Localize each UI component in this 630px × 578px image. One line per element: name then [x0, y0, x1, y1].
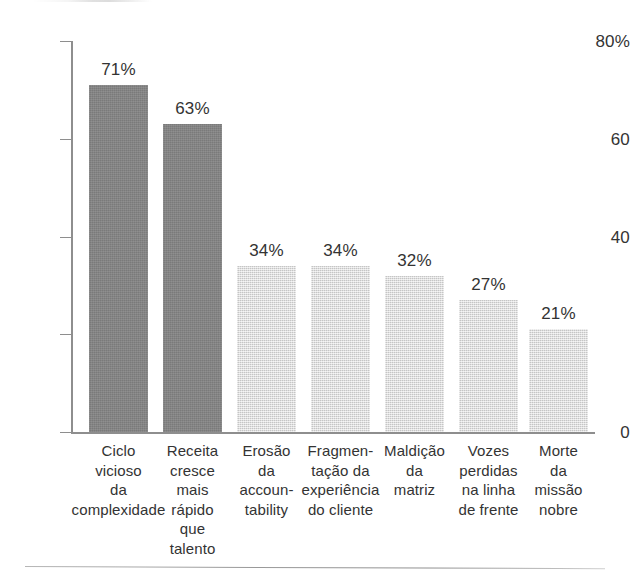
bar-2: 63% — [163, 124, 222, 432]
bar-3: 34% — [237, 266, 296, 432]
x-axis-category-labels: Ciclo vicioso da complexidadeReceita cre… — [0, 441, 630, 561]
bar-4: 34% — [311, 266, 370, 432]
bar-value-label-1: 71% — [101, 61, 136, 78]
category-label-7: Morte da missão nobre — [509, 441, 609, 519]
bar-fill-3 — [237, 266, 296, 432]
bar-fill-1 — [89, 85, 148, 432]
bar-6: 27% — [459, 300, 518, 432]
bar-value-label-7: 21% — [541, 305, 576, 322]
bar-fill-2 — [163, 124, 222, 432]
bar-value-label-4: 34% — [323, 242, 358, 259]
bar-fill-7 — [529, 329, 588, 432]
bar-7: 21% — [529, 329, 588, 432]
bar-1: 71% — [89, 85, 148, 432]
bar-fill-5 — [385, 276, 444, 432]
bars-layer: 71%63%34%34%32%27%21% — [0, 0, 630, 432]
bar-fill-4 — [311, 266, 370, 432]
bar-chart-figure: 80%60400 71%63%34%34%32%27%21% Ciclo vic… — [0, 0, 630, 578]
bar-fill-6 — [459, 300, 518, 432]
y-tick-mark-0 — [60, 432, 71, 433]
bar-value-label-2: 63% — [175, 100, 210, 117]
bar-value-label-3: 34% — [249, 242, 284, 259]
x-axis-line — [71, 432, 595, 434]
bar-5: 32% — [385, 276, 444, 432]
bar-value-label-6: 27% — [471, 276, 506, 293]
bar-value-label-5: 32% — [397, 252, 432, 269]
plot-area: 80%60400 71%63%34%34%32%27%21% Ciclo vic… — [0, 0, 630, 578]
